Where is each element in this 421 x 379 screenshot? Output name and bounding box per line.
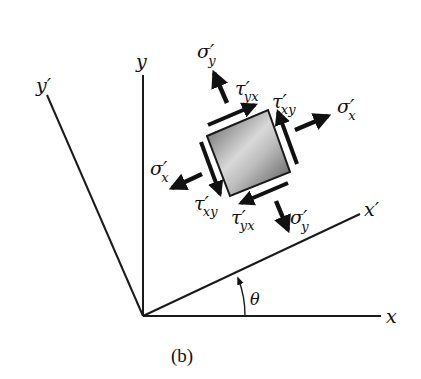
axes <box>47 75 381 316</box>
sigma-x-right-arrow <box>295 116 328 130</box>
theta-arc <box>238 278 245 316</box>
sigma-x-right-label: σ′x <box>337 95 356 123</box>
y-axis-label: y <box>135 50 147 72</box>
sigma-y-bottom-arrow <box>276 201 288 230</box>
figure-caption: (b) <box>171 345 193 367</box>
stress-element <box>207 110 290 196</box>
tau-yx-top-label: τ′yx <box>235 77 259 104</box>
sigma-x-left-label: σ′x <box>150 157 169 185</box>
sigma-y-top-label: σ′y <box>197 40 216 68</box>
x-axis-label: x <box>386 305 397 327</box>
stress-transformation-diagram: x y x′ y′ θ σ′y τ′yx τ′xy σ′x σ′x <box>0 0 421 379</box>
tau-xy-left-label: τ′xy <box>194 192 218 219</box>
tau-yx-bottom-label: τ′yx <box>231 206 255 233</box>
sigma-y-bottom-label: σ′y <box>290 206 309 234</box>
theta-label: θ <box>250 290 260 309</box>
tau-xy-right-label: τ′xy <box>272 90 296 117</box>
x-prime-axis-label: x′ <box>364 198 380 220</box>
sigma-x-left-arrow <box>172 174 202 188</box>
y-prime-axis <box>47 95 143 316</box>
y-prime-axis-label: y′ <box>35 74 52 96</box>
sigma-y-top-arrow <box>214 73 227 103</box>
